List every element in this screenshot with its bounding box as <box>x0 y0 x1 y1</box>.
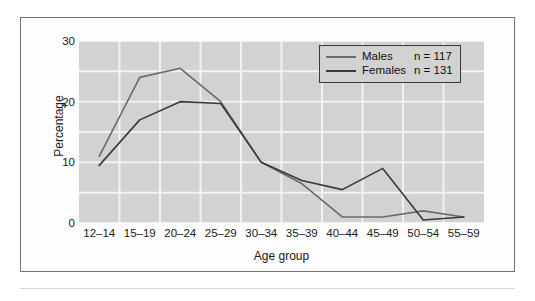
legend-label-females: Females <box>362 65 414 77</box>
figure-container: 30 20 10 0 Percentage 12–1415–1920–2425–… <box>0 0 535 301</box>
bottom-divider <box>20 288 515 289</box>
legend-row-males: Males n = 117 <box>326 50 453 64</box>
y-tick-30: 30 <box>49 36 75 48</box>
legend-n-males: n = 117 <box>414 51 452 63</box>
x-axis-tick-layer: 12–1415–1920–2425–2930–3435–3940–4445–49… <box>79 228 484 244</box>
x-axis-title: Age group <box>79 249 484 263</box>
y-axis-title: Percentage <box>52 66 66 186</box>
legend-swatch-males-icon <box>326 56 356 58</box>
chart-frame: 30 20 10 0 Percentage 12–1415–1920–2425–… <box>20 17 515 272</box>
legend-n-females: n = 131 <box>414 65 453 77</box>
legend-row-females: Females n = 131 <box>326 64 453 78</box>
legend-label-males: Males <box>362 51 414 63</box>
y-axis-tick-layer: 30 20 10 0 Percentage <box>43 41 75 223</box>
x-tick-9: 55–59 <box>436 228 492 240</box>
chart-legend: Males n = 117 Females n = 131 <box>319 45 461 83</box>
plot-wrapper: 30 20 10 0 Percentage 12–1415–1920–2425–… <box>21 18 516 273</box>
legend-swatch-females-icon <box>326 70 356 72</box>
